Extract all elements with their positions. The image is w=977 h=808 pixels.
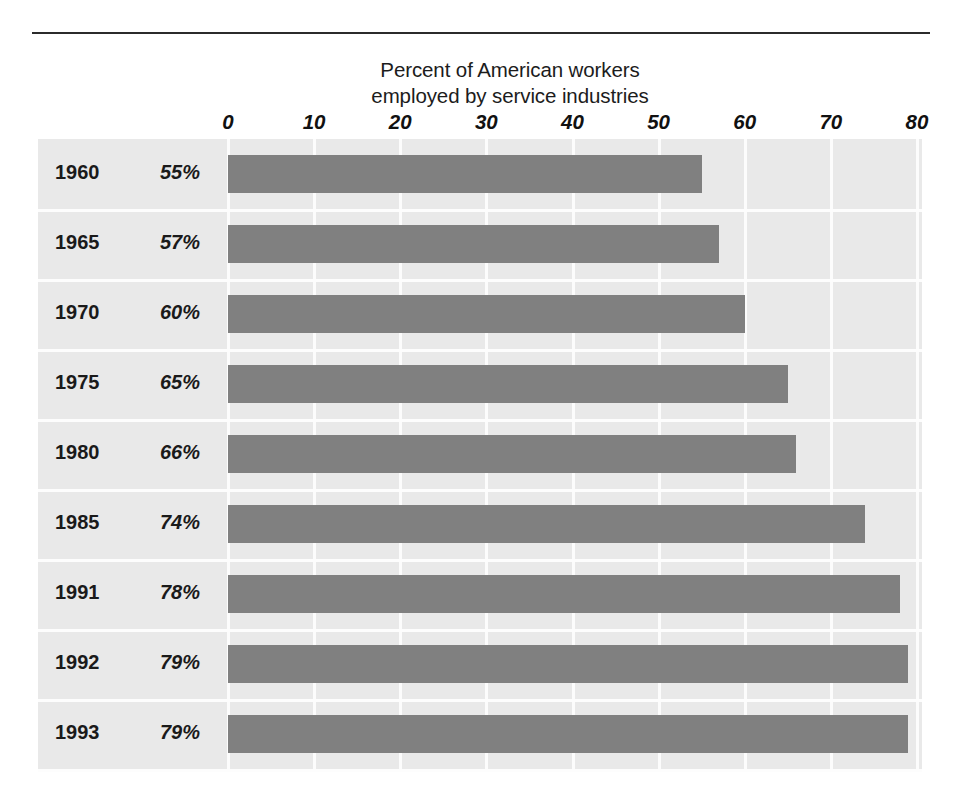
bar-row: 197060% <box>38 279 922 349</box>
x-tick-label-40: 40 <box>543 110 603 134</box>
row-percent-label: 60% <box>160 301 230 324</box>
bar-row: 199379% <box>38 699 922 769</box>
row-year-label: 1985 <box>55 511 145 534</box>
bar <box>228 645 908 683</box>
bar-row: 198066% <box>38 419 922 489</box>
row-year-label: 1991 <box>55 581 145 604</box>
bar <box>228 435 796 473</box>
row-year-label: 1992 <box>55 651 145 674</box>
row-year-label: 1993 <box>55 721 145 744</box>
row-percent-label: 79% <box>160 651 230 674</box>
bar-row: 199178% <box>38 559 922 629</box>
x-tick-label-70: 70 <box>801 110 861 134</box>
bar <box>228 575 900 613</box>
row-percent-label: 79% <box>160 721 230 744</box>
bar-rows: 196055%196557%197060%197565%198066%19857… <box>38 139 922 772</box>
row-separator <box>38 629 922 632</box>
row-percent-label: 78% <box>160 581 230 604</box>
bar-row: 199279% <box>38 629 922 699</box>
x-tick-label-0: 0 <box>198 110 258 134</box>
x-axis-tick-labels: 01020304050607080 <box>0 110 977 138</box>
row-percent-label: 74% <box>160 511 230 534</box>
row-percent-label: 66% <box>160 441 230 464</box>
x-tick-label-60: 60 <box>715 110 775 134</box>
x-tick-label-20: 20 <box>370 110 430 134</box>
bar <box>228 225 719 263</box>
row-separator <box>38 209 922 212</box>
row-percent-label: 57% <box>160 231 230 254</box>
x-tick-label-10: 10 <box>284 110 344 134</box>
row-year-label: 1970 <box>55 301 145 324</box>
top-divider-rule <box>32 32 930 34</box>
row-separator <box>38 419 922 422</box>
row-separator <box>38 279 922 282</box>
bar <box>228 715 908 753</box>
chart-title-line-1: Percent of American workers <box>300 57 720 83</box>
row-year-label: 1960 <box>55 161 145 184</box>
row-separator <box>38 699 922 702</box>
x-tick-label-80: 80 <box>887 110 947 134</box>
bar-row: 196055% <box>38 139 922 209</box>
x-tick-label-30: 30 <box>456 110 516 134</box>
chart-title: Percent of American workers employed by … <box>300 57 720 109</box>
row-year-label: 1980 <box>55 441 145 464</box>
bar <box>228 155 702 193</box>
bar <box>228 295 745 333</box>
row-year-label: 1975 <box>55 371 145 394</box>
bar <box>228 505 865 543</box>
row-separator <box>38 489 922 492</box>
x-tick-label-50: 50 <box>629 110 689 134</box>
row-percent-label: 65% <box>160 371 230 394</box>
bar-row: 197565% <box>38 349 922 419</box>
row-percent-label: 55% <box>160 161 230 184</box>
bar <box>228 365 788 403</box>
chart-title-line-2: employed by service industries <box>300 83 720 109</box>
row-separator <box>38 559 922 562</box>
bar-row: 198574% <box>38 489 922 559</box>
panel-bottom-separator <box>38 769 922 772</box>
chart-plot-area: 196055%196557%197060%197565%198066%19857… <box>38 139 922 772</box>
row-separator <box>38 349 922 352</box>
row-year-label: 1965 <box>55 231 145 254</box>
bar-row: 196557% <box>38 209 922 279</box>
